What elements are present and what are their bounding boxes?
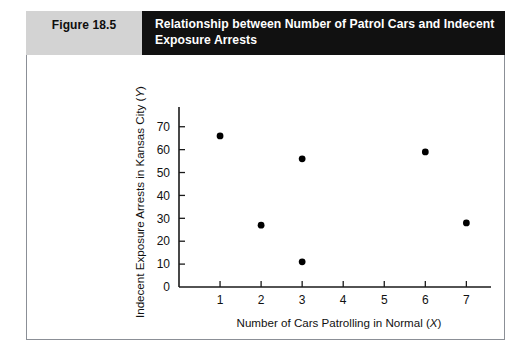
x-tick-label: 7 bbox=[463, 293, 470, 307]
x-tick-label: 4 bbox=[340, 293, 347, 307]
scatter-plot: 010203040506070 1234567 Number of Cars P… bbox=[26, 55, 505, 340]
y-axis-title: Indecent Exposure Arrests in Kansas City… bbox=[133, 86, 146, 318]
y-tick-label: 0 bbox=[163, 280, 170, 294]
x-tick-label: 5 bbox=[381, 293, 388, 307]
x-axis-title: Number of Cars Patrolling in Normal (X) bbox=[237, 316, 442, 329]
data-point bbox=[299, 155, 306, 162]
figure-number-label: Figure 18.5 bbox=[52, 18, 116, 32]
x-axis: 1234567 bbox=[179, 281, 491, 307]
y-tick-label: 20 bbox=[157, 234, 171, 248]
x-tick-label: 2 bbox=[258, 293, 265, 307]
plot-svg: 010203040506070 1234567 Number of Cars P… bbox=[26, 55, 505, 340]
y-tick-label: 70 bbox=[157, 120, 171, 134]
figure-title-box: Relationship between Number of Patrol Ca… bbox=[142, 11, 505, 55]
y-tick-label: 30 bbox=[157, 212, 171, 226]
y-tick-label: 60 bbox=[157, 143, 171, 157]
figure-header: Figure 18.5 Relationship between Number … bbox=[26, 11, 505, 55]
data-point bbox=[422, 149, 429, 156]
x-tick-label: 3 bbox=[299, 293, 306, 307]
y-axis: 010203040506070 bbox=[157, 107, 185, 294]
x-tick-label: 6 bbox=[422, 293, 429, 307]
data-point bbox=[463, 219, 470, 226]
y-tick-label: 40 bbox=[157, 189, 171, 203]
data-points-group bbox=[217, 132, 470, 265]
y-tick-label: 50 bbox=[157, 166, 171, 180]
data-point bbox=[217, 132, 224, 139]
y-tick-label: 10 bbox=[157, 257, 171, 271]
data-point bbox=[258, 222, 265, 229]
data-point bbox=[299, 258, 306, 265]
figure-number-box: Figure 18.5 bbox=[26, 11, 142, 55]
figure-title: Relationship between Number of Patrol Ca… bbox=[155, 17, 495, 48]
x-tick-label: 1 bbox=[217, 293, 224, 307]
